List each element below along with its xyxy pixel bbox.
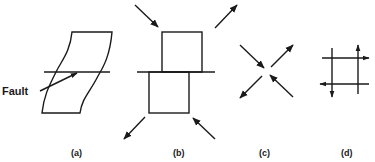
arrow-top-right-outward	[215, 5, 237, 28]
fault-pointer-arrow	[40, 73, 77, 91]
panel-b: (b)	[124, 5, 237, 158]
arrow-bottom-left-outward	[240, 76, 262, 98]
arrow-top-right-outward	[271, 45, 293, 67]
arrow-bottom-right-inward	[270, 75, 293, 97]
fault-label: Fault	[2, 85, 29, 97]
lower-block	[149, 72, 189, 113]
caption-d: (d)	[341, 148, 353, 158]
caption-c: (c)	[259, 148, 270, 158]
caption-a: (a)	[71, 148, 82, 158]
arrow-top-left-inward	[135, 5, 158, 27]
panel-a: Fault (a)	[2, 32, 112, 158]
arrow-top-left-inward	[240, 45, 264, 68]
upper-block	[162, 32, 202, 72]
panel-d: (d)	[320, 45, 369, 158]
arrow-bottom-left-outward	[124, 117, 145, 139]
panel-c: (c)	[240, 45, 293, 158]
caption-b: (b)	[173, 148, 185, 158]
fault-shear-diagram: Fault (a) (b) (c) (d)	[0, 0, 375, 162]
arrow-bottom-right-inward	[193, 118, 215, 139]
